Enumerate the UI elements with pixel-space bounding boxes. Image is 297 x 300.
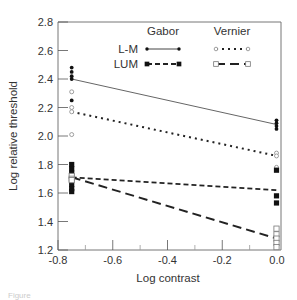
open-square-marker xyxy=(69,178,74,183)
open-circle-marker xyxy=(214,47,218,51)
legend-column-header: Vernier xyxy=(214,25,251,37)
y-axis: 1.21.41.61.82.02.22.42.62.8 xyxy=(38,16,68,256)
filled-circle-marker xyxy=(70,66,74,70)
filled-circle-marker xyxy=(145,47,148,50)
y-tick-label: 2.6 xyxy=(38,45,53,57)
filled-square-marker xyxy=(69,189,74,194)
y-tick-label: 2.2 xyxy=(38,102,53,114)
y-tick-label: 2.4 xyxy=(38,73,53,85)
open-square-marker xyxy=(274,245,279,250)
open-circle-marker xyxy=(70,110,74,114)
axes-box xyxy=(58,22,281,250)
x-axis: -0.8-0.6-0.4-0.20.0 xyxy=(49,240,285,266)
chart: 1.21.41.61.82.02.22.42.62.8 -0.8-0.6-0.4… xyxy=(0,0,297,300)
x-tick-label: -0.6 xyxy=(103,254,122,266)
filled-square-marker xyxy=(145,62,150,67)
open-square-marker xyxy=(246,62,251,67)
legend-column-header: Gabor xyxy=(147,25,179,37)
open-circle-marker xyxy=(70,106,74,110)
open-circle-marker xyxy=(275,154,279,158)
x-tick-label: -0.2 xyxy=(213,254,232,266)
filled-square-marker xyxy=(274,200,279,205)
filled-circle-marker xyxy=(275,127,279,131)
y-tick-label: 2.8 xyxy=(38,16,53,28)
y-axis-label: Log relative threshold xyxy=(7,81,19,191)
filled-square-marker xyxy=(177,62,182,67)
figure-caption: Figure xyxy=(8,291,31,300)
filled-square-marker xyxy=(274,168,279,173)
fit-line xyxy=(72,177,277,190)
open-circle-marker xyxy=(70,90,74,94)
fit-lines xyxy=(72,79,277,239)
data-points xyxy=(69,66,279,250)
fit-line xyxy=(72,177,277,238)
fit-line xyxy=(72,112,277,156)
y-tick-label: 1.8 xyxy=(38,159,53,171)
y-tick-label: 1.6 xyxy=(38,187,53,199)
filled-circle-marker xyxy=(70,70,74,74)
filled-circle-marker xyxy=(70,77,74,81)
open-square-marker xyxy=(274,226,279,231)
x-tick-label: 0.0 xyxy=(269,254,284,266)
x-axis-label: Log contrast xyxy=(136,272,200,284)
filled-circle-marker xyxy=(177,47,180,50)
y-tick-label: 1.4 xyxy=(38,216,53,228)
x-tick-label: -0.8 xyxy=(49,254,68,266)
y-tick-label: 2.0 xyxy=(38,130,53,142)
open-circle-marker xyxy=(70,133,74,137)
x-tick-label: -0.4 xyxy=(158,254,177,266)
legend-row-label: LUM xyxy=(114,58,138,70)
open-square-marker xyxy=(214,62,219,67)
open-circle-marker xyxy=(246,47,250,51)
plot-frame xyxy=(58,22,281,250)
legend: GaborVernierL-MLUM xyxy=(114,25,251,70)
filled-circle-marker xyxy=(70,98,74,102)
legend-row-label: L-M xyxy=(118,43,138,55)
filled-square-marker xyxy=(274,193,279,198)
